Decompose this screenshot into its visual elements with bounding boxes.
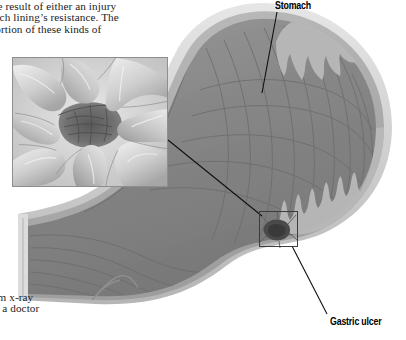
- body-text-top: y the result of either an injury omach l…: [0, 1, 119, 35]
- body-text-bottom: barium x-ray ereby a doctor e.: [0, 292, 39, 326]
- body-text-top-line-2: omach lining’s resistance. The: [0, 12, 119, 23]
- ulcer-callout-box: [259, 211, 298, 247]
- duodenum: [18, 214, 28, 300]
- body-text-bottom-line-3: e.: [0, 315, 39, 326]
- label-stomach: Stomach: [275, 0, 311, 11]
- gastric-ulcer-leader-line: [292, 246, 327, 314]
- figure-canvas: y the result of either an injury omach l…: [0, 0, 406, 340]
- body-text-bottom-line-2: ereby a doctor: [0, 303, 39, 314]
- label-gastric-ulcer: Gastric ulcer: [330, 316, 382, 327]
- ulcer-closeup-drawing: [13, 58, 167, 186]
- ulcer-closeup-inset: [12, 57, 168, 187]
- body-text-top-line-3: roportion of these kinds of: [0, 24, 119, 35]
